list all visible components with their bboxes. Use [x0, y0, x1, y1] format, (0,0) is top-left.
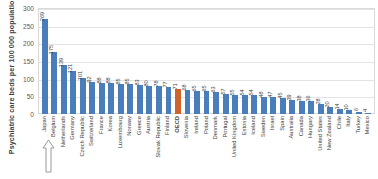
- x-label-slot: Denmark: [211, 115, 221, 177]
- bar: 55: [232, 95, 238, 114]
- bar: 54: [242, 95, 248, 114]
- x-label-slot: OECD: [173, 115, 183, 177]
- x-axis-label: Israel: [270, 116, 276, 130]
- bar-slot: 139: [59, 8, 69, 114]
- bar: 88: [99, 83, 105, 114]
- y-axis-tick-label: 200: [23, 40, 34, 47]
- bar-value-label: 20: [324, 101, 330, 112]
- x-label-slot: Italy: [345, 115, 355, 177]
- x-label-slot: Finland: [164, 115, 174, 177]
- bar-value-label: 36: [305, 96, 311, 107]
- bar-slot: 101: [78, 8, 88, 114]
- bar: 63: [213, 92, 219, 114]
- y-axis-tick-label: 300: [23, 5, 34, 12]
- bar-slot: 269: [40, 8, 50, 114]
- x-axis-label: Greece: [137, 116, 143, 135]
- bar-value-label: 54: [239, 89, 245, 100]
- x-label-slot: Slovenia: [183, 115, 193, 177]
- bar: 175: [51, 52, 57, 114]
- x-axis-label: Spain: [280, 116, 286, 131]
- y-axis-tick-label: 250: [23, 22, 34, 29]
- bar: 269: [42, 19, 48, 114]
- bar-slot: 77: [164, 8, 174, 114]
- bar: 77: [166, 87, 172, 114]
- x-label-slot: Netherlands: [59, 115, 69, 177]
- bar-value-label: 65: [191, 85, 197, 96]
- x-axis-label: New Zealand: [327, 116, 333, 150]
- x-label-slot: Poland: [202, 115, 212, 177]
- x-axis-label: Chile: [337, 116, 343, 129]
- bar-slot: 88: [107, 8, 117, 114]
- bar: 92: [89, 82, 95, 115]
- bar: 68: [185, 90, 191, 114]
- bar-slot: 80: [145, 8, 155, 114]
- x-label-slot: Canada: [297, 115, 307, 177]
- bar-slot: 71: [173, 8, 183, 114]
- bar-slot: 88: [97, 8, 107, 114]
- x-axis-label: Turkey: [356, 116, 362, 134]
- bars-container: 2691751391211019288888585838078777168656…: [38, 8, 375, 114]
- bar: 20: [327, 107, 333, 114]
- bar: 101: [80, 78, 86, 114]
- bar-value-label: 83: [134, 79, 140, 90]
- bar: 36: [308, 101, 314, 114]
- up-arrow-icon: [42, 139, 55, 173]
- bar-slot: 92: [88, 8, 98, 114]
- bar: 65: [204, 91, 210, 114]
- bar-value-label: 45: [277, 92, 283, 103]
- bar-value-label: 101: [77, 71, 83, 85]
- x-label-slot: Ireland: [192, 115, 202, 177]
- bar-slot: 83: [135, 8, 145, 114]
- bar-value-label: 47: [267, 92, 273, 103]
- x-axis-label: Canada: [299, 116, 305, 136]
- x-label-slot: Turkey: [354, 115, 364, 177]
- x-label-slot: Austria: [145, 115, 155, 177]
- bar: 88: [108, 83, 114, 114]
- x-axis-label: Netherlands: [61, 116, 67, 147]
- bar-value-label: 48: [258, 91, 264, 102]
- bar-value-label: 92: [86, 76, 92, 87]
- x-label-slot: United States: [316, 115, 326, 177]
- x-axis-label: United States: [318, 116, 324, 151]
- bar: 65: [194, 91, 200, 114]
- bar-slot: 68: [183, 8, 193, 114]
- bar-value-label: 54: [248, 89, 254, 100]
- x-axis-label: Mexico: [365, 116, 371, 134]
- x-axis-label: Norway: [127, 116, 133, 136]
- x-axis-label: Japan: [42, 116, 48, 132]
- bar-value-label: 121: [67, 64, 73, 78]
- x-axis-label: Luxembourg: [118, 116, 124, 148]
- x-axis-label: Estonia: [242, 116, 248, 135]
- bar-slot: 10: [345, 8, 355, 114]
- x-label-slot: Spain: [278, 115, 288, 177]
- psychiatric-care-beds-bar-chart: Psychiatric care beds per 100 000 popula…: [0, 0, 378, 179]
- bar-slot: 121: [69, 8, 79, 114]
- x-axis-label: Slovak Republic: [156, 116, 162, 158]
- x-label-slot: France: [97, 115, 107, 177]
- x-axis-label: Sweden: [261, 116, 267, 137]
- bar-value-label: 14: [334, 103, 340, 114]
- bar: 85: [118, 84, 124, 114]
- x-label-slot: Sweden: [259, 115, 269, 177]
- bar-value-label: 139: [58, 58, 64, 72]
- x-axis-label: OECD: [175, 116, 181, 133]
- bar: 121: [70, 71, 76, 114]
- x-label-slot: Australia: [287, 115, 297, 177]
- bar-slot: 28: [316, 8, 326, 114]
- x-axis-label: Finland: [166, 116, 172, 135]
- bar-value-label: 77: [162, 81, 168, 92]
- bar-value-label: 269: [39, 12, 45, 26]
- bar-value-label: 55: [229, 89, 235, 100]
- x-axis-label: Germany: [70, 116, 76, 140]
- bar-value-label: 175: [48, 45, 54, 59]
- y-axis-tick-label: 50: [27, 93, 34, 100]
- x-axis-label: Belgium: [51, 116, 57, 137]
- x-label-slot: Estonia: [240, 115, 250, 177]
- bar: 57: [223, 94, 229, 114]
- x-axis-label: Iceland: [251, 116, 257, 135]
- x-label-slot: Korea: [107, 115, 117, 177]
- x-axis-label: Poland: [204, 116, 210, 134]
- bar: 45: [280, 98, 286, 114]
- x-axis-label: Denmark: [213, 116, 219, 140]
- bar-value-label: 85: [124, 78, 130, 89]
